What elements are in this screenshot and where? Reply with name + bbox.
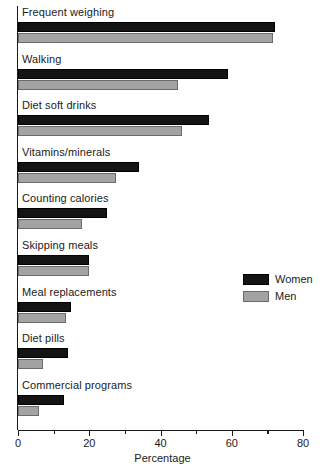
bar-women [18,302,71,312]
bar-women [18,348,68,358]
bar-men [18,266,89,276]
category-label: Diet pills [22,332,65,345]
category-label: Commercial programs [22,379,132,392]
legend-item-men: Men [243,289,313,303]
bar-women [18,115,209,125]
x-tick-label: 60 [226,437,238,450]
category-group: Commercial programs [18,379,303,426]
x-tick-major [89,430,90,436]
category-group: Counting calories [18,192,303,239]
category-label: Walking [22,53,61,66]
category-label: Skipping meals [22,239,98,252]
bar-women [18,208,107,218]
x-tick-major [18,430,19,436]
x-tick-major [303,430,304,436]
category-label: Vitamins/minerals [22,146,110,159]
bar-men [18,33,273,43]
legend-label: Women [275,273,313,286]
category-group: Diet pills [18,332,303,379]
bar-women [18,255,89,265]
x-tick-label: 40 [154,437,166,450]
legend-label: Men [275,290,296,303]
x-tick-minor [196,430,197,434]
bar-men [18,173,116,183]
chart-legend: WomenMen [243,272,313,306]
bar-men [18,313,66,323]
bar-women [18,69,228,79]
category-group: Walking [18,53,303,100]
category-group: Vitamins/minerals [18,146,303,193]
x-tick-label: 20 [83,437,95,450]
legend-swatch-men [243,291,269,302]
bar-women [18,395,64,405]
legend-item-women: Women [243,272,313,286]
x-tick-minor [267,430,268,434]
category-label: Frequent weighing [22,6,114,19]
bar-men [18,219,82,229]
plot-area: Frequent weighingWalkingDiet soft drinks… [18,6,303,428]
x-tick-major [161,430,162,436]
x-axis-title: Percentage [0,452,325,465]
bar-men [18,406,39,416]
bar-women [18,22,275,32]
category-group: Frequent weighing [18,6,303,53]
x-tick-label: 80 [297,437,309,450]
bar-men [18,126,182,136]
x-tick-label: 0 [15,437,21,450]
x-tick-minor [54,430,55,434]
category-group: Diet soft drinks [18,99,303,146]
grouped-bar-chart: Frequent weighingWalkingDiet soft drinks… [0,0,325,471]
category-label: Meal replacements [22,286,117,299]
x-tick-minor [125,430,126,434]
legend-swatch-women [243,274,269,285]
x-tick-major [232,430,233,436]
category-label: Counting calories [22,192,109,205]
category-label: Diet soft drinks [22,99,96,112]
bar-men [18,359,43,369]
bar-men [18,80,178,90]
bar-women [18,162,139,172]
